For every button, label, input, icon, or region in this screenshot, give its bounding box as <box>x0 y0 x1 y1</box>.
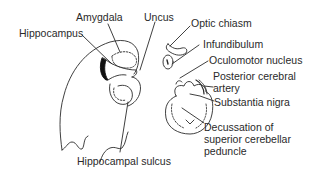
label-decussation-1: Decussation of <box>204 121 273 133</box>
label-posterior-cerebral-1: Posterior cerebral <box>213 70 296 82</box>
leader-oculomotor <box>180 61 208 78</box>
label-substantia-nigra: Substantia nigra <box>214 96 290 108</box>
label-hippocampal-sulcus: Hippocampal sulcus <box>77 155 171 167</box>
hippocampus-dark <box>100 58 108 80</box>
label-optic-chiasm: Optic chiasm <box>191 17 252 29</box>
leader-uncus <box>140 22 155 70</box>
leader-hippocampus <box>82 35 112 64</box>
label-decussation-3: peduncle <box>204 145 247 157</box>
posterior-cerebral-artery-shape <box>196 80 204 94</box>
label-decussation-2: superior cerebellar <box>204 133 291 145</box>
temporal-lobe-outline <box>60 40 139 150</box>
leader-optic-chiasm <box>170 26 190 46</box>
label-uncus: Uncus <box>144 11 174 23</box>
label-amygdala: Amygdala <box>76 11 123 23</box>
leader-amygdala <box>108 24 120 52</box>
label-oculomotor-nucleus: Oculomotor nucleus <box>209 54 302 66</box>
anatomy-diagram: Amygdala Uncus Hippocampus Optic chiasm … <box>0 0 315 182</box>
label-hippocampus: Hippocampus <box>19 27 83 39</box>
label-infundibulum: Infundibulum <box>203 38 263 50</box>
optic-chiasm-shape <box>166 44 187 55</box>
label-posterior-cerebral-2: artery <box>213 82 240 94</box>
